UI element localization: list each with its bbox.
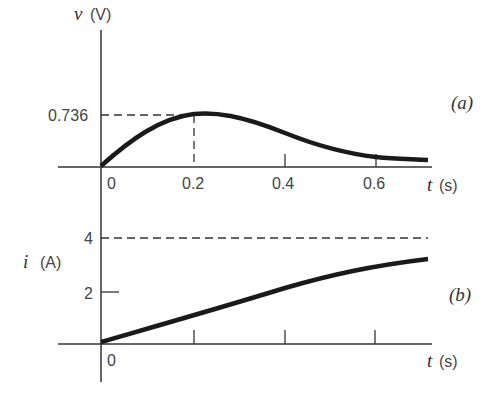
a-ylabel-var: v	[74, 3, 83, 24]
a-panel-label: (a)	[451, 92, 473, 114]
a-xtick-0.6: 0.6	[363, 175, 385, 192]
b-current-curve	[101, 259, 428, 342]
b-xlabel-var: t	[427, 350, 433, 371]
b-ytick-4: 4	[84, 230, 93, 247]
b-xlabel-unit: (s)	[439, 353, 458, 370]
a-xlabel-unit: (s)	[439, 177, 458, 194]
b-xtick-0: 0	[107, 352, 116, 369]
a-ylabel-unit: (V)	[90, 6, 111, 23]
a-ytick-peak: 0.736	[48, 107, 88, 124]
a-voltage-curve	[101, 113, 428, 166]
b-panel-label: (b)	[449, 284, 471, 306]
b-ylabel-var: i	[23, 251, 28, 272]
b-ylabel-unit: (A)	[40, 254, 61, 271]
panel-a: v (V) 0.736 0 0.2 0.4 0.6 t (s) (a)	[48, 3, 473, 195]
panel-b: i (A) 4 2 0 t (s) (b)	[23, 195, 471, 382]
a-xtick-0.4: 0.4	[272, 175, 294, 192]
figure: v (V) 0.736 0 0.2 0.4 0.6 t (s) (a) i (A…	[0, 0, 504, 409]
a-xtick-0: 0	[107, 175, 116, 192]
b-ytick-2: 2	[84, 285, 93, 302]
a-xtick-0.2: 0.2	[182, 175, 204, 192]
a-xlabel-var: t	[427, 174, 433, 195]
